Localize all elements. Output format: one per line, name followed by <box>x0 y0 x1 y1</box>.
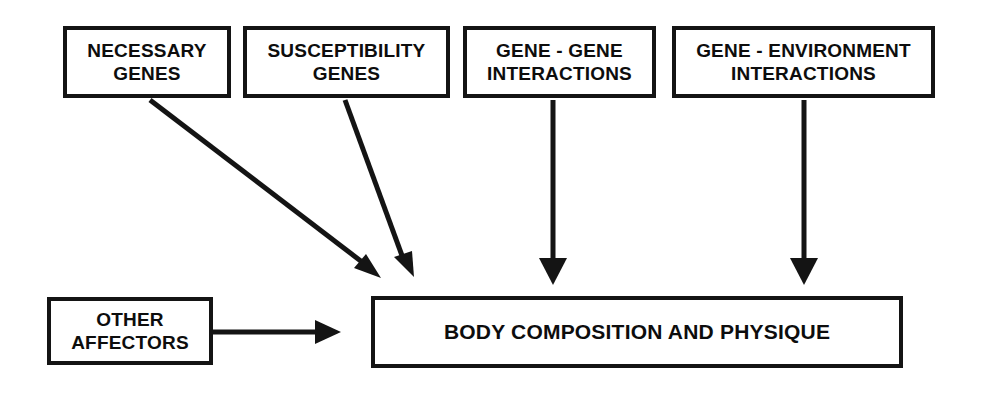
arrow-susceptibility-genes-to-body-composition <box>345 100 414 277</box>
node-necessary-genes[interactable]: NECESSARY GENES <box>63 26 231 98</box>
node-susceptibility-genes[interactable]: SUSCEPTIBILITY GENES <box>243 26 450 98</box>
node-necessary-genes-label: NECESSARY GENES <box>87 39 206 85</box>
arrow-gene-environment-to-body-composition <box>790 100 818 285</box>
node-gene-gene-interactions-label: GENE - GENE INTERACTIONS <box>487 39 632 85</box>
node-other-affectors-label: OTHER AFFECTORS <box>71 308 189 354</box>
node-gene-environment-interactions-label: GENE - ENVIRONMENT INTERACTIONS <box>696 39 911 85</box>
arrow-necessary-genes-to-body-composition <box>150 100 381 278</box>
node-gene-environment-interactions[interactable]: GENE - ENVIRONMENT INTERACTIONS <box>672 26 935 98</box>
node-susceptibility-genes-label: SUSCEPTIBILITY GENES <box>268 39 426 85</box>
node-other-affectors[interactable]: OTHER AFFECTORS <box>47 297 213 365</box>
node-body-composition-label: BODY COMPOSITION AND PHYSIQUE <box>444 319 830 345</box>
arrow-gene-gene-to-body-composition <box>539 100 567 285</box>
arrow-other-affectors-to-body-composition <box>213 320 341 344</box>
flowchart-diagram: NECESSARY GENES SUSCEPTIBILITY GENES GEN… <box>0 0 995 395</box>
node-gene-gene-interactions[interactable]: GENE - GENE INTERACTIONS <box>463 26 656 98</box>
node-body-composition[interactable]: BODY COMPOSITION AND PHYSIQUE <box>371 296 903 368</box>
